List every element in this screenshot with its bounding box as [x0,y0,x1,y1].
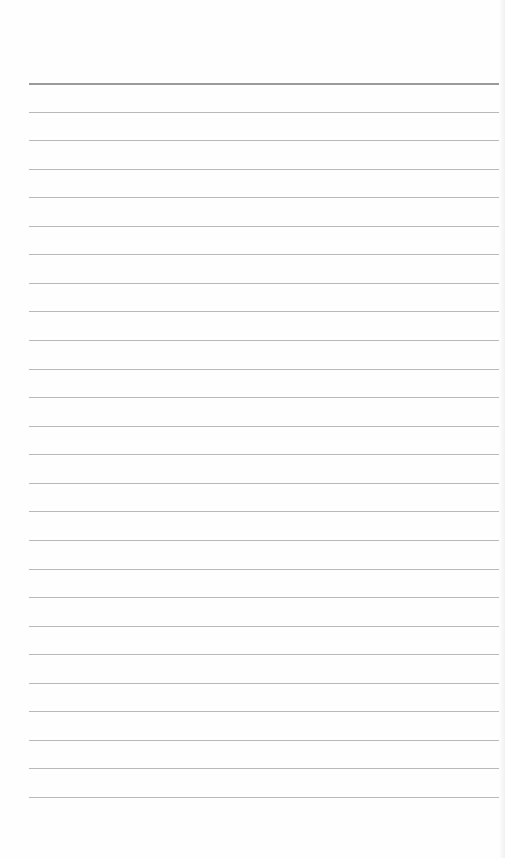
rule-line [29,454,499,455]
rule-line [29,169,499,170]
ruled-paper-page [0,0,505,858]
rule-line [29,483,499,484]
rule-line [29,397,499,398]
rule-line [29,426,499,427]
rule-line [29,626,499,627]
rule-line [29,254,499,255]
rule-line [29,369,499,370]
rule-line [29,740,499,741]
rule-line [29,283,499,284]
rule-line [29,197,499,198]
rule-line [29,683,499,684]
rule-line [29,226,499,227]
header-rule-line [29,83,499,85]
rule-line [29,311,499,312]
rule-line [29,511,499,512]
page-edge-shadow [499,0,505,858]
rule-line [29,597,499,598]
rule-line [29,711,499,712]
rule-line [29,340,499,341]
rule-line [29,797,499,798]
rule-line [29,768,499,769]
rule-line [29,540,499,541]
rule-line [29,140,499,141]
rule-line [29,569,499,570]
rule-line [29,654,499,655]
rule-line [29,112,499,113]
